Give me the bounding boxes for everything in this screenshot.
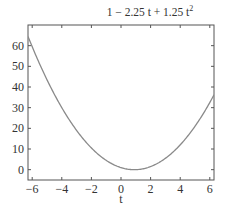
- x-tick-label: −2: [85, 182, 98, 196]
- y-tick-label: 20: [12, 121, 24, 135]
- x-axis: −6−4−20246: [26, 25, 213, 196]
- y-tick-label: 60: [12, 39, 24, 53]
- x-tick-label: 2: [148, 182, 154, 196]
- x-tick-label: 4: [177, 182, 183, 196]
- chart-title-superscript: 2: [189, 4, 193, 13]
- y-tick-label: 50: [12, 59, 24, 73]
- chart-title: 1 − 2.25 t + 1.25 t2: [107, 4, 194, 18]
- x-tick-label: 6: [207, 182, 213, 196]
- chart-title-main: 1 − 2.25 t + 1.25 t: [107, 6, 190, 18]
- y-axis: 0102030405060: [12, 39, 214, 177]
- plot-svg: 1 − 2.25 t + 1.25 t2 −6−4−20246 01020304…: [0, 0, 228, 211]
- data-curve: [28, 36, 214, 169]
- y-tick-label: 30: [12, 101, 24, 115]
- y-tick-label: 10: [12, 142, 24, 156]
- x-tick-label: −4: [55, 182, 68, 196]
- y-tick-label: 0: [18, 163, 24, 177]
- axes-box: [28, 25, 214, 180]
- chart: 1 − 2.25 t + 1.25 t2 −6−4−20246 01020304…: [0, 0, 228, 211]
- y-tick-label: 40: [12, 80, 24, 94]
- x-tick-label: −6: [26, 182, 39, 196]
